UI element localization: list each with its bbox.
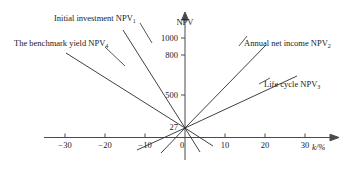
series-line-npv1-extension bbox=[185, 128, 200, 152]
series-label-npv2-sub: 2 bbox=[328, 43, 331, 49]
x-tick-label: 20 bbox=[261, 140, 270, 150]
series-label-npv4: The benchmark yield NPV4 bbox=[14, 38, 108, 49]
npv-sensitivity-chart: −30 −20 −10 0 10 20 30 1000 800 500 27 N… bbox=[0, 0, 355, 175]
series-label-npv1: Initial investment NPV1 bbox=[54, 13, 136, 24]
x-tick-label: 10 bbox=[221, 140, 230, 150]
y-tick-group: 1000 800 500 27 bbox=[161, 33, 185, 132]
y-tick-label-pivot: 27 bbox=[170, 122, 179, 132]
x-axis-title: k/% bbox=[312, 142, 325, 152]
series-label-npv2-text: Annual net income NPV bbox=[244, 38, 329, 48]
x-axis-arrowhead bbox=[330, 134, 339, 141]
series-line-npv2 bbox=[185, 45, 266, 128]
series-label-npv4-sub: 4 bbox=[105, 43, 108, 49]
series-lines-group bbox=[66, 30, 297, 153]
series-label-npv1-sub: 1 bbox=[133, 18, 136, 24]
leader-lines-group bbox=[105, 23, 270, 84]
series-label-npv1-text: Initial investment NPV bbox=[54, 13, 134, 23]
series-label-npv3-text: Life cycle NPV bbox=[264, 79, 318, 89]
x-tick-label: 0 bbox=[180, 140, 184, 150]
series-label-npv4-text: The benchmark yield NPV bbox=[14, 38, 106, 48]
x-tick-label: 30 bbox=[301, 140, 310, 150]
y-axis-title: NPV bbox=[176, 17, 194, 27]
x-tick-label: −30 bbox=[58, 140, 71, 150]
x-tick-group: −30 −20 −10 0 10 20 30 bbox=[58, 134, 309, 151]
y-tick-label: 500 bbox=[165, 90, 178, 100]
y-tick-label: 800 bbox=[165, 50, 178, 60]
series-label-npv2: Annual net income NPV2 bbox=[244, 38, 331, 49]
series-label-npv3: Life cycle NPV3 bbox=[264, 79, 320, 90]
series-label-npv3-sub: 3 bbox=[317, 84, 320, 90]
leader-line-npv1 bbox=[140, 23, 152, 43]
y-tick-label: 1000 bbox=[161, 33, 178, 43]
series-line-npv1 bbox=[123, 30, 185, 128]
x-tick-label: −20 bbox=[98, 140, 111, 150]
leader-line-npv4 bbox=[105, 47, 125, 66]
series-line-npv3-extension bbox=[137, 128, 185, 150]
